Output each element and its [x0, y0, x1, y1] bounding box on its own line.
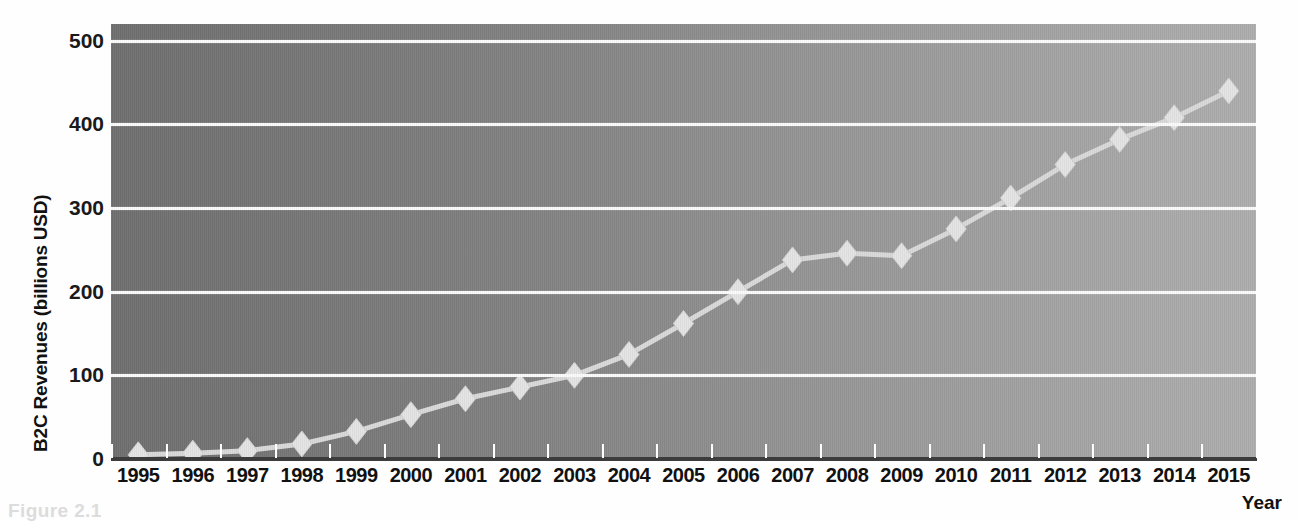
gridline [111, 291, 1256, 294]
x-axis-line [111, 457, 1257, 461]
figure-caption: Figure 2.1 [8, 500, 102, 522]
data-point-marker: 2009: 243 [891, 243, 911, 269]
y-axis-title-container: B2C Revenues (billions USD) [0, 0, 40, 470]
x-axis-tick-mark [1201, 444, 1203, 458]
data-point-marker: 2002: 86 [510, 374, 530, 400]
x-axis-tick-mark [1038, 444, 1040, 458]
x-axis-tick-mark [547, 444, 549, 458]
x-axis-tick-mark [1092, 444, 1094, 458]
y-axis-tick-label: 200 [46, 280, 104, 304]
x-axis-tick-mark [602, 444, 604, 458]
plot-area: 1995: 51996: 71997: 101998: 181999: 3320… [111, 24, 1256, 461]
y-axis-tick-label: 400 [46, 112, 104, 136]
x-axis-tick-label: 2015 [1189, 464, 1269, 487]
x-axis-tick-mark [166, 444, 168, 458]
data-point-marker: 2001: 72 [455, 386, 475, 412]
data-point-marker: 2010: 275 [946, 216, 966, 242]
x-axis-tick-mark [820, 444, 822, 458]
series-line-b2c-revenues: 1995: 51996: 71997: 101998: 181999: 3320… [111, 24, 1256, 461]
data-point-marker: 1999: 33 [346, 418, 366, 444]
x-axis-tick-mark [1256, 444, 1258, 458]
x-axis-tick-labels: 1995199619971998199920002001200220032004… [0, 464, 1298, 494]
data-point-marker: 2013: 382 [1110, 126, 1130, 152]
gridline [111, 374, 1256, 377]
x-axis-title: Year [1242, 492, 1282, 514]
x-axis-tick-mark [220, 444, 222, 458]
data-point-marker: 1998: 18 [292, 431, 312, 457]
x-axis-tick-mark [1147, 444, 1149, 458]
y-axis-tick-label: 100 [46, 363, 104, 387]
gridline [111, 207, 1256, 210]
y-axis-tick-labels: 0100200300400500 [40, 0, 104, 519]
x-axis-tick-mark [874, 444, 876, 458]
data-point-marker: 2008: 246 [837, 240, 857, 266]
x-axis-tick-mark [765, 444, 767, 458]
gridline [111, 40, 1256, 43]
x-axis-tick-mark [111, 444, 113, 458]
data-point-marker: 2014: 408 [1164, 105, 1184, 131]
y-axis-tick-label: 500 [46, 29, 104, 53]
data-point-marker: 2007: 238 [782, 247, 802, 273]
x-axis-tick-mark [711, 444, 713, 458]
y-axis-tick-label: 300 [46, 196, 104, 220]
x-axis-tick-mark [329, 444, 331, 458]
data-point-marker: 2005: 162 [673, 310, 693, 336]
data-point-marker: 2012: 352 [1055, 152, 1075, 178]
x-axis-tick-mark [438, 444, 440, 458]
data-point-marker: 2000: 53 [401, 402, 421, 428]
data-point-marker: 2015: 440 [1219, 78, 1239, 104]
x-axis-tick-mark [275, 444, 277, 458]
x-axis-tick-mark [929, 444, 931, 458]
gridline [111, 123, 1256, 126]
data-point-marker: 2004: 125 [619, 341, 639, 367]
x-axis-tick-mark [493, 444, 495, 458]
series-polyline [138, 91, 1228, 455]
x-axis-tick-mark [384, 444, 386, 458]
x-axis-tick-mark [983, 444, 985, 458]
x-axis-tick-mark [656, 444, 658, 458]
